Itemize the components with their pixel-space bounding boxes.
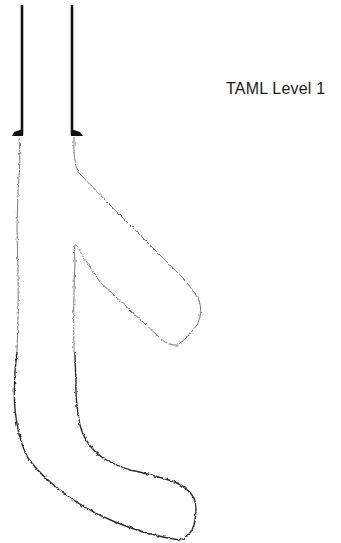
casing-shoe-right [71,129,83,136]
main-bore [14,352,196,540]
diagram-title-label: TAML Level 1 [226,80,325,98]
casing-shoe-left [12,129,23,136]
casing-left [12,5,23,136]
casing-right [71,5,83,136]
lateral-branch [17,138,201,352]
